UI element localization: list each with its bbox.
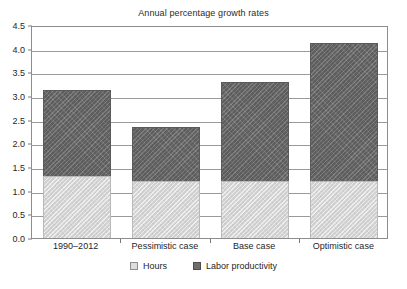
x-axis-tick-label: 1990–2012 (53, 241, 98, 251)
x-axis-tick-mark (299, 239, 300, 243)
y-axis-tick-label: 0.0 (12, 234, 25, 244)
legend-label: Labor productivity (206, 261, 277, 271)
x-axis-tick-label: Pessimistic case (132, 241, 199, 251)
bar-segment-labor-productivity[interactable] (132, 127, 200, 181)
y-axis-tick-label: 4.0 (12, 45, 25, 55)
x-axis-tick-mark (210, 239, 211, 243)
bar-group[interactable] (221, 82, 289, 238)
x-axis-tick-mark (120, 239, 121, 243)
y-axis-tick-label: 4.5 (12, 21, 25, 31)
legend-item[interactable]: Hours (130, 261, 167, 271)
bar-group[interactable] (310, 43, 378, 238)
hours-swatch-icon (130, 262, 138, 270)
bar-segment-labor-productivity[interactable] (43, 90, 111, 176)
y-axis-tick-label: 1.5 (12, 163, 25, 173)
x-axis: 1990–2012Pessimistic caseBase caseOptimi… (31, 241, 388, 257)
x-axis-tick-label: Base case (233, 241, 275, 251)
bar-group[interactable] (132, 127, 200, 238)
figure-stacked-bar-chart: Annual percentage growth rates 4.54.03.5… (0, 0, 407, 289)
y-axis-tick-label: 1.0 (12, 187, 25, 197)
bar-segment-hours[interactable] (43, 176, 111, 238)
labor-productivity-swatch-icon (193, 262, 201, 270)
chart-title: Annual percentage growth rates (0, 8, 407, 18)
bar-segment-labor-productivity[interactable] (310, 43, 378, 181)
bar-series-container (32, 27, 387, 238)
y-axis-tick-label: 2.0 (12, 139, 25, 149)
y-axis: 4.54.03.53.02.52.01.51.00.50.0 (0, 26, 28, 239)
legend-label: Hours (143, 261, 167, 271)
plot-area (31, 26, 388, 239)
bar-segment-labor-productivity[interactable] (221, 82, 289, 181)
bar-segment-hours[interactable] (221, 181, 289, 238)
y-axis-tick-label: 2.5 (12, 116, 25, 126)
bar-segment-hours[interactable] (310, 181, 378, 238)
chart-legend: HoursLabor productivity (0, 261, 407, 271)
legend-item[interactable]: Labor productivity (193, 261, 277, 271)
y-axis-tick-label: 3.0 (12, 92, 25, 102)
bar-group[interactable] (43, 90, 111, 238)
x-axis-tick-label: Optimistic case (313, 241, 374, 251)
y-axis-tick-label: 0.5 (12, 210, 25, 220)
bar-segment-hours[interactable] (132, 181, 200, 238)
y-axis-tick-label: 3.5 (12, 68, 25, 78)
